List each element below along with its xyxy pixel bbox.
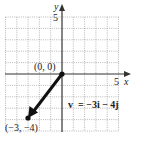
y-axis-arrow-icon <box>59 4 65 11</box>
x-tick-label: 5 <box>114 76 119 87</box>
origin-point <box>59 71 64 76</box>
y-axis <box>59 4 65 132</box>
endpoint-label: (−3, −4) <box>5 122 38 134</box>
x-axis-label: x <box>123 76 129 87</box>
y-axis-label: y <box>53 1 59 12</box>
vector-figure: y 5 5 x (0, 0) (−3, −4) v = −3i − 4j <box>0 0 143 144</box>
vector-name: v <box>68 99 73 110</box>
origin-label: (0, 0) <box>34 61 56 73</box>
y-tick-label: 5 <box>53 12 58 23</box>
vector-equation: = −3i − 4j <box>78 99 119 110</box>
vector-v <box>25 71 64 120</box>
x-axis <box>5 71 131 77</box>
endpoint-point <box>25 115 30 120</box>
